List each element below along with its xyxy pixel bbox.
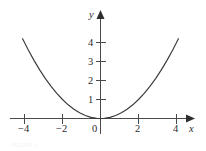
x-axis-arrow-icon [186,115,195,123]
origin-label: 0 [92,124,97,135]
y-tick-label-3: 3 [88,57,93,68]
x-tick-label-neg4: −4 [18,124,29,135]
y-tick-label-1: 1 [88,95,93,106]
x-tick-label-pos2: 2 [135,124,140,135]
y-axis-arrow-icon [97,10,105,19]
x-tick-label-pos4: 4 [173,124,178,135]
x-axis-label: x [189,124,194,135]
y-tick-label-4: 4 [88,38,93,49]
y-axis-label: y [89,10,94,21]
figure-container: −4 −2 2 4 0 1 2 3 4 x y FIGURE 1 [0,0,206,151]
figure-caption-faint: FIGURE 1 [11,142,53,147]
y-tick-label-2: 2 [88,76,93,87]
x-tick-label-neg2: −2 [56,124,67,135]
